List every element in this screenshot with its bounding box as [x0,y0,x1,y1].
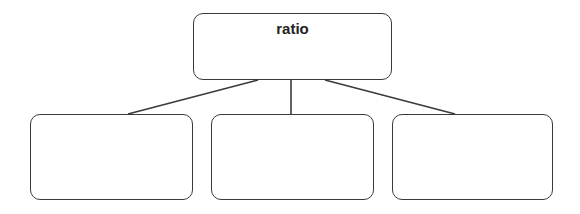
connector-root-to-child-1 [128,80,258,114]
connector-root-to-child-3 [325,80,455,114]
root-node-label: ratio [194,20,391,37]
child-node-3 [392,114,553,200]
root-node: ratio [193,13,392,80]
tree-diagram: ratio [0,0,580,214]
child-node-1 [30,114,193,200]
child-node-2 [211,114,374,200]
